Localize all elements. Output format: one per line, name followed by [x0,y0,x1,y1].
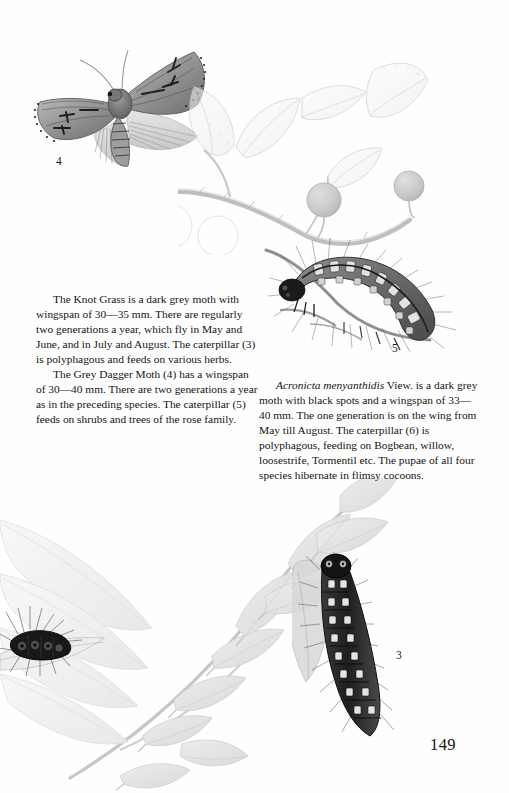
page-number: 149 [430,735,456,755]
paragraph-acronicta-menyanthidis: Acronicta menyanthidis View. is a dark g… [259,378,481,483]
right-text-column: Acronicta menyanthidis View. is a dark g… [259,378,481,483]
figure-label-3: 3 [396,649,402,661]
species-scientific-name: Acronicta menyanthidis [276,379,384,391]
dark-caterpillar-illustration [292,548,412,738]
tufted-caterpillar-leaf-illustration [0,600,120,690]
left-text-column: The Knot Grass is a dark grey moth with … [36,292,260,427]
paragraph-knot-grass: The Knot Grass is a dark grey moth with … [36,292,260,367]
book-page: The Knot Grass is a dark grey moth with … [0,0,509,793]
figure-label-4: 4 [56,155,62,167]
hairy-caterpillar-illustration [262,232,474,357]
species-description-text: View. is a dark grey moth with black spo… [259,379,477,481]
figure-label-5: 5 [392,342,398,354]
berry-branch-illustration [178,40,428,255]
paragraph-grey-dagger: The Grey Dagger Moth (4) has a wingspan … [36,367,260,427]
